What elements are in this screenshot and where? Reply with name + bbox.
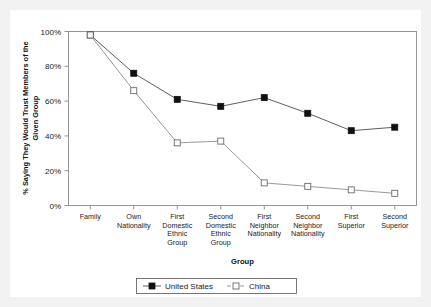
legend-marker-china bbox=[233, 283, 239, 289]
category-label: Nationality bbox=[117, 221, 151, 230]
chart-canvas: 100% 80% 60% 40% 20% 0% Family bbox=[10, 10, 421, 297]
data-point-china bbox=[174, 140, 180, 146]
y-tick-label: 0% bbox=[49, 202, 61, 211]
data-point-china bbox=[392, 190, 398, 196]
data-point-china bbox=[305, 183, 311, 189]
y-tick-label: 20% bbox=[45, 167, 61, 176]
data-point-china bbox=[218, 138, 224, 144]
data-point-us bbox=[174, 96, 180, 102]
legend-label-china: China bbox=[249, 282, 270, 291]
legend-label-us: United States bbox=[165, 282, 213, 291]
data-point-china bbox=[131, 88, 137, 94]
category-label: Group bbox=[167, 238, 187, 247]
data-point-china bbox=[348, 187, 354, 193]
data-point-us bbox=[261, 95, 267, 101]
category-label: Nationality bbox=[291, 229, 325, 238]
y-axis-title: % Saying They Would Trust Members of the… bbox=[21, 41, 40, 194]
data-point-china bbox=[261, 180, 267, 186]
x-axis-title: Group bbox=[231, 257, 254, 266]
y-tick-label: 60% bbox=[45, 97, 61, 106]
data-point-china bbox=[87, 32, 93, 38]
category-label: Family bbox=[80, 212, 102, 221]
data-point-us bbox=[131, 70, 137, 76]
category-label: Nationality bbox=[247, 229, 281, 238]
line-chart-svg: 100% 80% 60% 40% 20% 0% Family bbox=[10, 10, 421, 297]
y-tick-label: 80% bbox=[45, 62, 61, 71]
plot-frame bbox=[69, 32, 417, 206]
x-axis-ticks bbox=[90, 206, 395, 210]
data-point-us bbox=[218, 103, 224, 109]
data-point-us bbox=[305, 110, 311, 116]
y-axis-tick-labels: 100% 80% 60% 40% 20% 0% bbox=[41, 28, 61, 211]
data-point-us bbox=[392, 124, 398, 130]
legend-marker-us bbox=[149, 283, 155, 289]
category-label: Superior bbox=[338, 221, 366, 230]
y-axis-ticks bbox=[65, 32, 69, 206]
series-line-china bbox=[90, 35, 395, 193]
data-point-us bbox=[348, 128, 354, 134]
y-axis-title-line2: Given Group bbox=[31, 95, 40, 140]
category-label: Superior bbox=[381, 221, 409, 230]
y-tick-label: 100% bbox=[41, 28, 61, 37]
chart-legend: United States China bbox=[137, 279, 297, 294]
series-united-states bbox=[87, 32, 398, 134]
category-label: Group bbox=[211, 238, 231, 247]
y-axis-title-line1: % Saying They Would Trust Members of the bbox=[21, 41, 30, 194]
chart-figure: 100% 80% 60% 40% 20% 0% Family bbox=[0, 0, 431, 307]
x-axis-category-labels: Family Own Nationality First Domestic Et… bbox=[80, 212, 409, 247]
series-china bbox=[87, 32, 398, 196]
y-tick-label: 40% bbox=[45, 132, 61, 141]
series-line-united-states bbox=[90, 35, 395, 131]
